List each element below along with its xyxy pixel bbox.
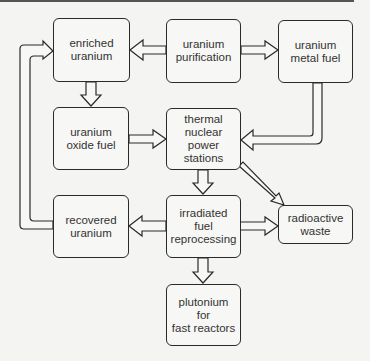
node-label: uranium metal fuel bbox=[291, 39, 341, 65]
arrow-reprocessing-to-waste bbox=[240, 217, 278, 235]
node-uranium-purification: uranium purification bbox=[166, 19, 241, 83]
arrow-thermal-to-waste bbox=[239, 162, 284, 205]
node-label: irradiated fuel reprocessing bbox=[171, 207, 237, 246]
node-radioactive-waste: radioactive waste bbox=[278, 205, 353, 244]
arrow-oxide-fuel-to-thermal bbox=[129, 130, 166, 148]
node-label: enriched uranium bbox=[69, 37, 113, 63]
arrow-recovered-to-enriched bbox=[20, 41, 53, 229]
arrow-enriched-to-oxide-fuel bbox=[81, 82, 101, 106]
node-recovered-uranium: recovered uranium bbox=[53, 195, 129, 258]
arrow-thermal-to-reprocessing bbox=[193, 170, 213, 194]
arrow-metal-fuel-to-thermal bbox=[241, 83, 322, 150]
node-enriched-uranium: enriched uranium bbox=[53, 18, 130, 82]
node-uranium-oxide-fuel: uranium oxide fuel bbox=[53, 107, 129, 170]
node-label: uranium purification bbox=[176, 38, 232, 64]
node-label: radioactive waste bbox=[288, 212, 344, 238]
arrow-purification-to-metal-fuel bbox=[241, 41, 278, 59]
node-label: plutonium for fast reactors bbox=[172, 296, 235, 335]
arrow-purification-to-enriched bbox=[130, 40, 166, 60]
node-label: uranium oxide fuel bbox=[66, 126, 115, 152]
node-label: thermal nuclear power stations bbox=[184, 113, 224, 165]
arrow-reprocessing-to-plutonium bbox=[193, 258, 213, 283]
node-label: recovered uranium bbox=[65, 214, 116, 240]
node-plutonium-for-fast-reactors: plutonium for fast reactors bbox=[166, 284, 241, 346]
arrow-reprocessing-to-recovered bbox=[129, 216, 166, 236]
node-uranium-metal-fuel: uranium metal fuel bbox=[278, 20, 353, 83]
node-thermal-nuclear-power-stations: thermal nuclear power stations bbox=[166, 108, 241, 170]
node-irradiated-fuel-reprocessing: irradiated fuel reprocessing bbox=[166, 195, 241, 258]
